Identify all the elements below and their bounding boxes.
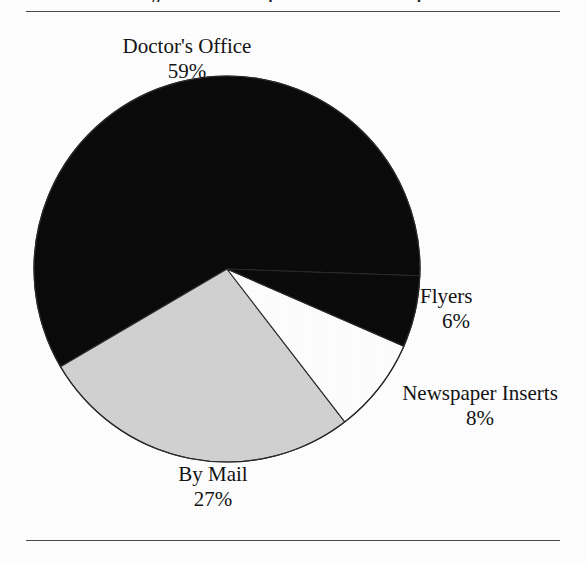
pie-chart: [0, 0, 586, 564]
bottom-rule: [26, 540, 560, 541]
slice-label-flyers: Flyers 6%: [420, 284, 540, 334]
slice-label-by-mail: By Mail 27%: [133, 462, 293, 512]
figure-plate: Figure 1. Where respondents obtained cou…: [0, 0, 586, 564]
slice-label-doctors-office-name: Doctor's Office: [94, 34, 280, 59]
pie-slice-group: [34, 76, 420, 462]
slice-label-newspaper-inserts-value: 8%: [382, 406, 578, 431]
slice-label-flyers-value: 6%: [420, 309, 540, 334]
slice-label-newspaper-inserts: Newspaper Inserts 8%: [382, 381, 578, 431]
slice-label-by-mail-name: By Mail: [133, 462, 293, 487]
pie-chart-svg: [0, 0, 586, 564]
slice-label-doctors-office-value: 59%: [94, 59, 280, 84]
slice-label-by-mail-value: 27%: [133, 487, 293, 512]
slice-label-newspaper-inserts-name: Newspaper Inserts: [382, 381, 578, 406]
slice-label-flyers-name: Flyers: [420, 284, 540, 309]
slice-label-doctors-office: Doctor's Office 59%: [94, 34, 280, 84]
